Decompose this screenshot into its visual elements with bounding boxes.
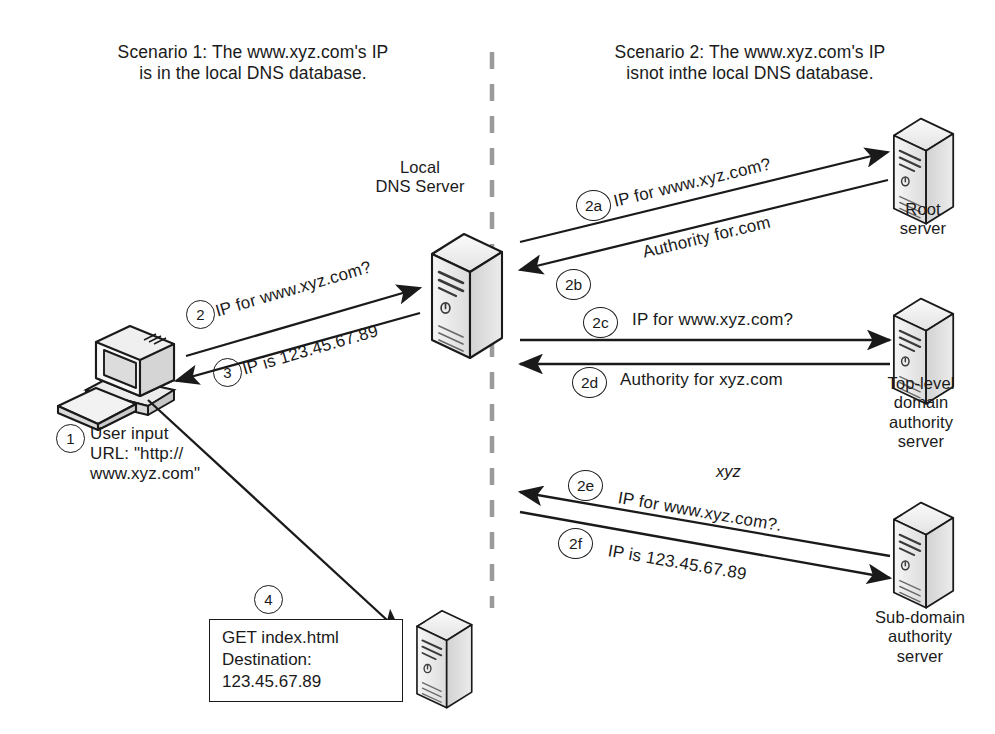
client-computer-icon [58, 326, 174, 430]
subdomain-server-label: Sub-domain authority server [845, 608, 995, 666]
subdomain-server-icon [894, 503, 953, 608]
tld-server-label: Top-level domain authority server [848, 374, 994, 452]
step-1-label: User input URL: "http:// www.xyz.com" [90, 424, 290, 484]
step-4-badge: 4 [254, 585, 283, 614]
step-2b-badge: 2b [556, 269, 591, 300]
local-dns-server-icon [432, 234, 502, 358]
step-2c-label: IP for www.xyz.com? [632, 310, 793, 330]
step-2-badge: 2 [186, 300, 215, 329]
xyz-annotation: xyz [716, 462, 741, 481]
step-2c-badge: 2c [583, 307, 618, 338]
scenario-1-title: Scenario 1: The www.xyz.com's IP is in t… [48, 42, 458, 83]
step-2d-label: Authority for xyz.com [620, 370, 783, 390]
step-4-packet-box: GET index.html Destination: 123.45.67.89 [209, 619, 403, 702]
step-3-badge: 3 [213, 358, 242, 387]
dns-resolution-diagram: Scenario 1: The www.xyz.com's IP is in t… [0, 0, 995, 734]
root-server-label: Root server [855, 200, 991, 239]
step-1-badge: 1 [56, 424, 85, 453]
step-2e-badge: 2e [568, 470, 603, 501]
step-2f-badge: 2f [558, 528, 593, 559]
local-dns-server-label: Local DNS Server [330, 158, 510, 197]
step-2d-badge: 2d [572, 367, 607, 398]
arrow-step-2b [520, 180, 888, 270]
step-2a-badge: 2a [576, 190, 611, 221]
web-server-icon [417, 611, 472, 708]
scenario-2-title: Scenario 2: The www.xyz.com's IP isnot i… [540, 42, 960, 83]
